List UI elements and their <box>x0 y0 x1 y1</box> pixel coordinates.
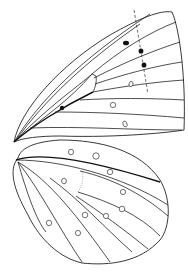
hindwing <box>13 140 168 264</box>
hindwing-open-spot <box>120 189 125 194</box>
hindwing-open-spot <box>93 153 99 159</box>
hindwing-outline <box>13 140 168 264</box>
hindwing-open-spot <box>62 178 67 184</box>
forewing-black-spot <box>142 62 147 67</box>
forewing-open-spot <box>122 120 128 127</box>
forewing-black-spot <box>123 41 129 46</box>
hindwing-open-spot <box>46 220 51 226</box>
forewing-open-spot <box>110 102 116 107</box>
hindwing-open-spot <box>75 230 80 235</box>
forewing <box>14 10 184 142</box>
forewing-black-spot <box>60 106 64 110</box>
hindwing-open-spot <box>68 149 73 155</box>
hindwing-open-spot <box>82 212 88 218</box>
butterfly-wing-diagram <box>0 0 188 278</box>
forewing-open-spot <box>128 81 134 87</box>
hindwing-open-spot <box>103 213 108 218</box>
hindwing-open-spot <box>119 206 125 212</box>
hindwing-open-spot <box>107 169 113 174</box>
forewing-black-spot <box>139 48 144 53</box>
